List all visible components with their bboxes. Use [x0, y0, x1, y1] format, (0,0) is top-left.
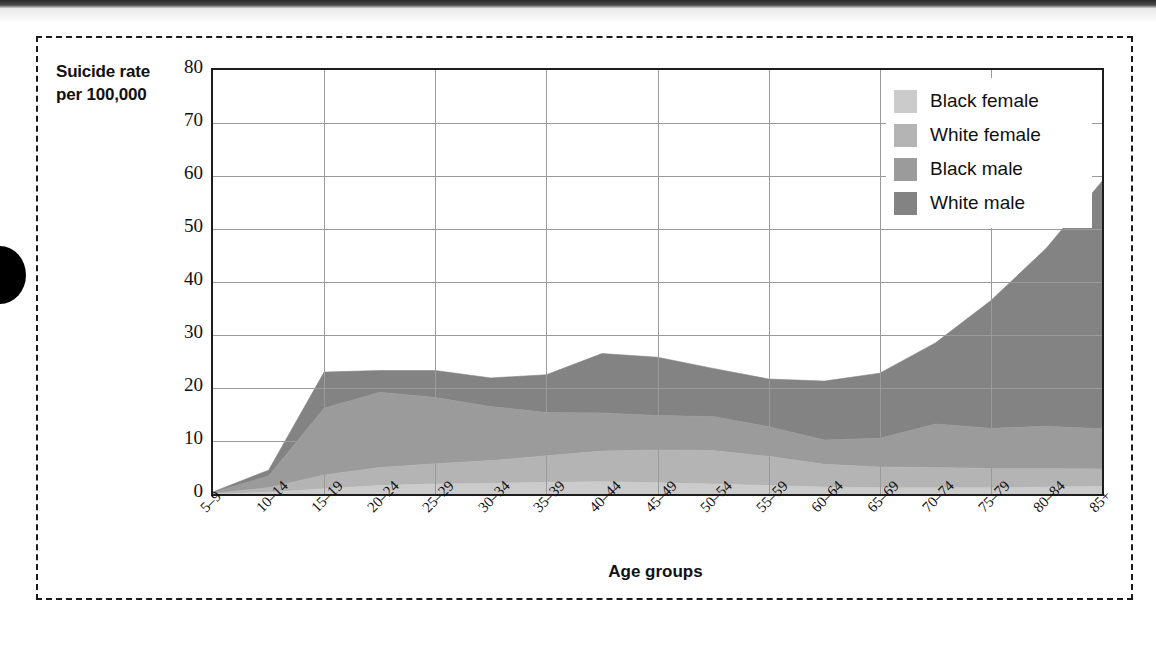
y-tick-label: 70 [167, 109, 203, 131]
gridline-vertical [769, 70, 770, 494]
chart-legend: Black femaleWhite femaleBlack maleWhite … [886, 78, 1092, 228]
legend-swatch-icon [894, 192, 917, 215]
legend-item: Black male [894, 152, 1086, 186]
x-axis-tick-labels: 5–910–1415–1920–2425–2930–3435–3940–4445… [211, 498, 1100, 558]
legend-label: Black male [930, 158, 1023, 180]
scan-top-shade [0, 9, 1156, 23]
legend-label: Black female [930, 90, 1039, 112]
gridline-vertical [880, 70, 881, 494]
legend-item: Black female [894, 84, 1086, 118]
legend-label: White male [930, 192, 1025, 214]
figure-page: Suicide rate per 100,000 010203040506070… [0, 0, 1156, 648]
y-axis-caption-line-1: Suicide rate [56, 60, 176, 83]
y-axis-caption: Suicide rate per 100,000 [56, 60, 176, 106]
y-tick-label: 0 [167, 480, 203, 502]
scan-top-band [0, 0, 1156, 9]
y-axis-tick-labels: 01020304050607080 [163, 68, 203, 492]
y-tick-label: 10 [167, 427, 203, 449]
page-binding-mark [0, 246, 26, 304]
legend-item: White female [894, 118, 1086, 152]
legend-swatch-icon [894, 158, 917, 181]
y-tick-label: 30 [167, 321, 203, 343]
gridline-vertical [435, 70, 436, 494]
gridline-vertical [658, 70, 659, 494]
y-tick-label: 50 [167, 215, 203, 237]
y-tick-label: 40 [167, 268, 203, 290]
x-axis-caption: Age groups [211, 562, 1100, 582]
y-tick-label: 80 [167, 56, 203, 78]
gridline-vertical [546, 70, 547, 494]
legend-swatch-icon [894, 90, 917, 113]
y-tick-label: 20 [167, 374, 203, 396]
legend-item: White male [894, 186, 1086, 220]
gridline-vertical [324, 70, 325, 494]
legend-label: White female [930, 124, 1041, 146]
legend-swatch-icon [894, 124, 917, 147]
y-axis-caption-line-2: per 100,000 [56, 83, 176, 106]
y-tick-label: 60 [167, 162, 203, 184]
